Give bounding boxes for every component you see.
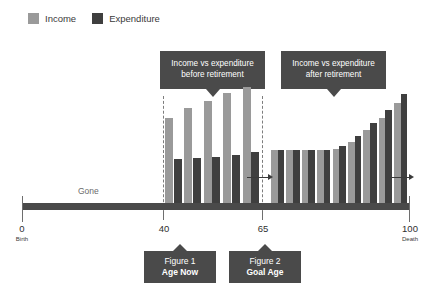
arrow-death-head-icon [409, 174, 414, 180]
bar-income-before-4 [223, 93, 231, 206]
axis-tick-100 [409, 196, 410, 222]
figure-tag-2-title: Figure 2 [235, 256, 295, 267]
bar-expenditure-after-5 [339, 146, 346, 206]
axis-label-65: 65 [243, 224, 283, 234]
bar-expenditure-after-9 [401, 94, 408, 206]
arrow-retirement-head-icon [268, 174, 273, 180]
bar-expenditure-before-5 [251, 152, 259, 206]
bar-expenditure-before-2 [193, 158, 201, 206]
figure-tag-1-subtitle: Age Now [150, 267, 210, 278]
axis-tick-40 [163, 211, 164, 220]
guide-line-age-65 [262, 96, 263, 212]
chart-canvas: Income Expenditure Income vs expenditure… [0, 0, 437, 297]
bar-income-after-2 [286, 150, 293, 206]
axis-label-100: 100 [390, 224, 430, 234]
arrow-retirement-shaft [247, 177, 269, 178]
bar-income-after-6 [348, 142, 355, 206]
axis-tick-65 [262, 211, 263, 220]
bars-plot-area [0, 0, 437, 297]
bar-income-before-1 [165, 118, 173, 206]
bar-income-after-5 [333, 149, 340, 206]
bar-expenditure-before-1 [174, 159, 182, 206]
axis-tick-0 [22, 196, 23, 222]
figure-tag-age-now: Figure 1 Age Now [144, 251, 216, 283]
figure-tag-goal-age: Figure 2 Goal Age [229, 251, 301, 283]
figure-tag-1-tail-icon [173, 244, 187, 251]
bar-expenditure-after-6 [355, 136, 362, 206]
bar-expenditure-before-4 [232, 155, 240, 206]
figure-tag-2-tail-icon [258, 244, 272, 251]
bar-income-after-4 [317, 150, 324, 206]
bar-expenditure-before-3 [212, 157, 220, 206]
axis-sublabel-birth: Birth [2, 236, 42, 242]
gone-label: Gone [78, 186, 99, 196]
bar-income-before-3 [204, 101, 212, 206]
bar-expenditure-after-8 [385, 110, 392, 206]
bar-income-before-2 [184, 108, 192, 206]
axis-sublabel-death: Death [390, 236, 430, 242]
arrow-death-shaft [390, 177, 410, 178]
bar-income-before-5 [243, 87, 251, 206]
bar-expenditure-after-1 [278, 150, 285, 206]
axis-label-40: 40 [144, 224, 184, 234]
bar-expenditure-after-3 [308, 150, 315, 206]
bar-expenditure-after-4 [324, 150, 331, 206]
timeline-axis [22, 203, 410, 210]
bar-expenditure-after-2 [293, 150, 300, 206]
figure-tag-1-title: Figure 1 [150, 256, 210, 267]
bar-income-after-9 [394, 103, 401, 206]
bar-income-after-7 [363, 130, 370, 206]
axis-label-0: 0 [2, 224, 42, 234]
guide-line-age-40 [163, 96, 164, 212]
bar-expenditure-after-7 [370, 123, 377, 206]
bar-income-after-8 [379, 118, 386, 206]
figure-tag-2-subtitle: Goal Age [235, 267, 295, 278]
bar-income-after-3 [302, 150, 309, 206]
